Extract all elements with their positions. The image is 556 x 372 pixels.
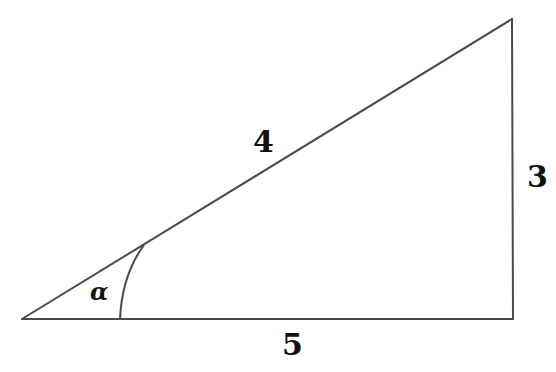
hypotenuse-label: 4 <box>253 124 274 159</box>
base-label: 5 <box>282 327 303 362</box>
vertical-side <box>512 19 513 319</box>
triangle-diagram: α 4 3 5 <box>0 0 556 372</box>
angle-label: α <box>90 277 108 306</box>
vertical-side-label: 3 <box>527 159 548 194</box>
hypotenuse-side <box>22 19 512 319</box>
